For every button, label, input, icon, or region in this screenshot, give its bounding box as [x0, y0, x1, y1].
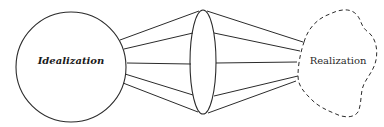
- connector-line: [123, 83, 198, 112]
- connector-line: [214, 76, 298, 96]
- connector-line: [216, 62, 297, 63]
- connector-line: [207, 11, 303, 42]
- connector-line: [127, 63, 191, 64]
- connector-line: [125, 74, 193, 95]
- diagram-canvas: Idealization Realization: [0, 0, 384, 127]
- right-connectors: [207, 11, 303, 113]
- idealization-label: Idealization: [37, 55, 105, 66]
- connector-line: [120, 11, 199, 40]
- connector-line: [124, 33, 193, 49]
- connector-line: [208, 81, 296, 113]
- idealization-circle: [16, 12, 126, 122]
- left-connectors: [120, 11, 199, 112]
- realization-label: Realization: [310, 55, 367, 66]
- connector-line: [214, 33, 300, 51]
- lens-ellipse: [190, 10, 216, 114]
